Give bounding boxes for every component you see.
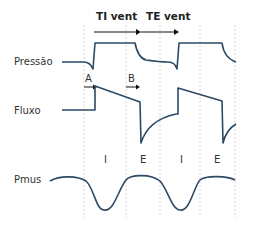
ti-vent-arrow bbox=[94, 29, 141, 35]
pressure-label: Pressão bbox=[14, 56, 53, 67]
te-vent-label: TE vent bbox=[146, 10, 190, 22]
marker-b-arrow bbox=[126, 85, 140, 90]
pmus-label: Pmus bbox=[14, 174, 41, 185]
flow-label: Fluxo bbox=[14, 105, 41, 116]
pressure-waveform bbox=[62, 43, 236, 69]
phase-label-inspiration-1: I bbox=[104, 154, 107, 165]
ventilation-waveform-diagram: TI vent TE vent Pressão A B Fluxo I E I … bbox=[0, 0, 259, 225]
marker-b-label: B bbox=[128, 73, 135, 84]
phase-label-expiration-1: E bbox=[140, 154, 146, 165]
pmus-waveform bbox=[50, 176, 235, 211]
flow-waveform bbox=[62, 86, 236, 143]
phase-label-expiration-2: E bbox=[214, 154, 220, 165]
ti-vent-label: TI vent bbox=[96, 10, 137, 22]
phase-label-inspiration-2: I bbox=[180, 154, 183, 165]
marker-a-label: A bbox=[85, 73, 92, 84]
phase-gridlines bbox=[84, 25, 235, 218]
